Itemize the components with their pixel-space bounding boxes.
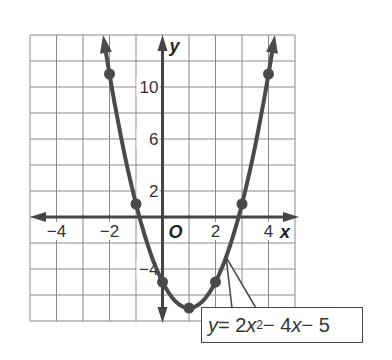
eq-part: = 2 (218, 314, 246, 337)
eq-part: − 5 (301, 314, 329, 337)
parabola-graph: −4−2241062−4yxO (0, 0, 392, 360)
origin-label: O (169, 222, 183, 242)
y-tick-label: 6 (149, 130, 158, 149)
eq-y: y (208, 314, 218, 337)
data-point (210, 277, 221, 288)
data-point (237, 199, 248, 210)
data-point (104, 69, 115, 80)
data-point (157, 277, 168, 288)
y-axis-label: y (169, 36, 181, 56)
data-point (184, 303, 195, 314)
x-tick-label: −2 (100, 222, 119, 241)
x-tick-label: 4 (264, 222, 273, 241)
eq-exponent: 2 (256, 318, 263, 332)
eq-part: − 4 (263, 314, 291, 337)
x-tick-label: −4 (47, 222, 66, 241)
eq-x: x (291, 314, 301, 337)
data-point (263, 69, 274, 80)
x-tick-label: 2 (211, 222, 220, 241)
y-tick-label: 2 (149, 182, 158, 201)
callout-pointer (226, 257, 256, 308)
data-point (131, 199, 142, 210)
y-tick-label: 10 (140, 78, 159, 97)
equation-label: y = 2x2 − 4x − 5 (201, 307, 363, 343)
x-axis-label: x (279, 222, 291, 242)
eq-x: x (246, 314, 256, 337)
